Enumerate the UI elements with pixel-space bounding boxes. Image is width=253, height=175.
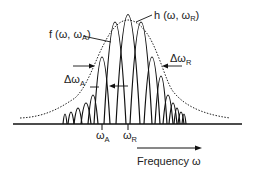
- label-h-function: h (ω, ωR): [154, 9, 199, 23]
- label-omega-r: ωR: [123, 129, 138, 144]
- arrow-head-icon: [195, 146, 202, 151]
- leader-h: [136, 15, 152, 22]
- arrow-head-icon: [109, 84, 115, 89]
- arrow-head-icon: [89, 64, 95, 69]
- label-omega-a: ωA: [96, 129, 110, 144]
- arrow-head-icon: [162, 64, 168, 69]
- label-f-function: f (ω, ωA): [49, 28, 91, 42]
- axis-label-frequency: Frequency ω: [137, 155, 201, 167]
- label-delta-omega-r: ΔωR: [170, 52, 192, 67]
- label-delta-omega-a: ΔωA: [64, 73, 85, 88]
- spectrum-diagram: f (ω, ωA) h (ω, ωR) ΔωA ΔωR ωA ωR Freque…: [0, 0, 253, 175]
